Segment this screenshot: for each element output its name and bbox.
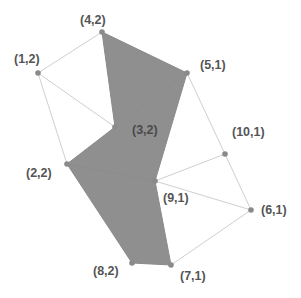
node-6-1	[248, 207, 254, 213]
shaded-region-layer	[67, 32, 187, 265]
node-label-1-2: (1,2)	[14, 52, 40, 66]
node-1-2	[35, 70, 41, 76]
edge-6-1-to-7-1	[171, 210, 251, 265]
shaded-region	[67, 32, 187, 265]
node-3-2	[112, 124, 118, 130]
graph-diagram: (4,2)(1,2)(5,1)(3,2)(2,2)(10,1)(9,1)(6,1…	[0, 0, 301, 298]
node-label-9-1: (9,1)	[163, 191, 189, 205]
edge-10-1-to-9-1	[155, 154, 225, 181]
edge-1-2-to-2-2	[38, 73, 67, 164]
node-label-5-1: (5,1)	[200, 58, 226, 72]
node-2-2	[64, 161, 70, 167]
node-label-10-1: (10,1)	[232, 125, 265, 139]
node-7-1	[168, 262, 174, 268]
node-label-6-1: (6,1)	[261, 203, 287, 217]
node-label-7-1: (7,1)	[180, 269, 206, 283]
edge-5-1-to-10-1	[187, 73, 225, 154]
node-10-1	[222, 151, 228, 157]
node-9-1	[152, 178, 158, 184]
edge-10-1-to-6-1	[225, 154, 251, 210]
node-5-1	[184, 70, 190, 76]
node-4-2	[99, 29, 105, 35]
edge-1-2-to-4-2	[38, 32, 102, 73]
node-label-2-2: (2,2)	[26, 166, 52, 180]
node-label-4-2: (4,2)	[80, 13, 106, 27]
node-8-2	[129, 260, 135, 266]
edge-1-2-to-3-2	[38, 73, 115, 127]
node-label-3-2: (3,2)	[132, 123, 158, 137]
node-label-8-2: (8,2)	[93, 264, 119, 278]
